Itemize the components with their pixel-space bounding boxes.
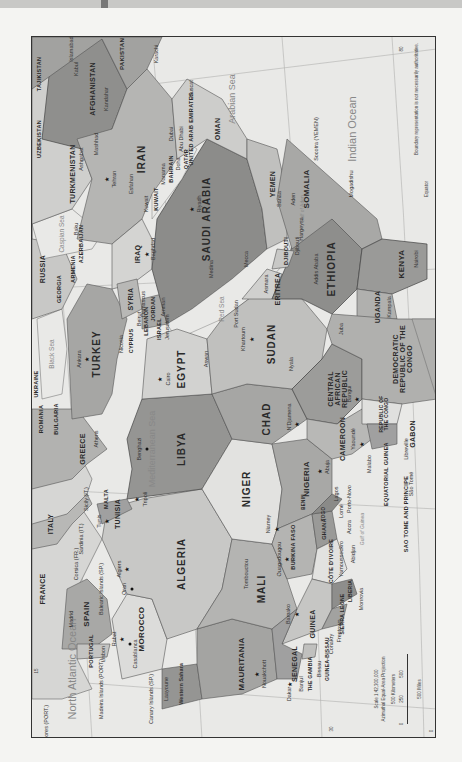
label-malta: MALTA bbox=[104, 489, 110, 509]
label-athens: Athens bbox=[94, 430, 100, 447]
label-algiers: Algiers bbox=[117, 561, 123, 578]
label-iraq: IRAQ bbox=[134, 245, 141, 264]
label-gambia: THE GAMBIA bbox=[308, 657, 313, 692]
label-cyprus: CYPRUS bbox=[129, 329, 135, 354]
capital-marker-cairo: ★ bbox=[157, 377, 163, 382]
capital-marker-riyadh: ★ bbox=[189, 207, 195, 212]
label-somalia: SOMALIA bbox=[303, 170, 311, 209]
capital-marker-tunis: ★ bbox=[104, 519, 110, 524]
scale-ratio: Scale 1:42,300,000 bbox=[375, 670, 380, 709]
label-medina: Medina bbox=[209, 260, 215, 278]
label-djibouti: DJIBOUTI bbox=[284, 237, 290, 265]
label-tripoli: Tripoli bbox=[143, 492, 149, 507]
top-edge-strip bbox=[0, 0, 462, 8]
label-abidjan: Abidjan bbox=[351, 545, 357, 563]
label-conakry: Conakry bbox=[329, 634, 335, 654]
label-france: FRANCE bbox=[39, 574, 46, 605]
label-lat-0: 0 bbox=[430, 730, 435, 733]
label-aden: Aden bbox=[291, 193, 297, 206]
label-mecca: Mecca bbox=[244, 251, 250, 267]
label-oman: OMAN bbox=[214, 118, 221, 141]
label-azerbaijan: AZERBAIJAN bbox=[79, 225, 85, 263]
label-mediterranean-sea: Mediterranean Sea bbox=[148, 411, 157, 488]
label-saudi-arabia: SAUDI ARABIA bbox=[202, 177, 212, 261]
label-kandahar: Kandahar bbox=[104, 87, 110, 111]
label-burkina-faso: BURKINA FASO bbox=[291, 524, 297, 569]
label-ankara: Ankara bbox=[77, 350, 83, 367]
label-eritrea: ERITREA bbox=[274, 273, 281, 306]
capital-marker-rabat: ★ bbox=[119, 637, 125, 642]
label-cote-divoire: CÔTE D'IVOIRE bbox=[329, 539, 335, 584]
map-canvas: Mediterranean Sea Black Sea Caspian Sea … bbox=[32, 37, 436, 738]
label-ukraine: UKRAINE bbox=[34, 370, 40, 397]
label-ashgabat: Ashgabat bbox=[79, 147, 85, 170]
scale-bar bbox=[407, 654, 408, 724]
label-lagos: Lagos bbox=[334, 487, 340, 502]
label-iran: IRAN bbox=[137, 145, 147, 173]
label-uganda: UGANDA bbox=[374, 291, 381, 324]
label-benghazi: Benghazi bbox=[137, 438, 143, 461]
scale-mi-label: 500 Miles bbox=[418, 679, 423, 698]
label-bahrain: BAHRAIN bbox=[169, 155, 175, 182]
label-afghanistan: AFGHANISTAN bbox=[89, 62, 96, 116]
label-red-sea: Red Sea bbox=[219, 296, 226, 321]
label-esfahan: Esfahan bbox=[129, 174, 135, 194]
label-turkey: TURKEY bbox=[92, 330, 102, 377]
label-mashhad: Mashhad bbox=[94, 133, 100, 156]
label-bangui: Bangui bbox=[347, 385, 353, 402]
label-tajikistan: TAJIKISTAN bbox=[37, 57, 43, 92]
label-spain: SPAIN bbox=[83, 601, 91, 626]
label-niamey: Niamey bbox=[266, 515, 272, 534]
label-yamoussoukro: Yamoussoukro bbox=[339, 541, 345, 577]
label-casablanca: Casablanca bbox=[133, 639, 139, 668]
label-algeria: ALGERIA bbox=[177, 538, 187, 590]
capital-marker-yaounde: ★ bbox=[359, 442, 365, 447]
label-chad: CHAD bbox=[262, 403, 272, 436]
label-porto-novo: Porto-Novo bbox=[347, 485, 353, 513]
capital-marker-bangui: ★ bbox=[354, 397, 360, 402]
label-abu-dhabi: Abu Dhabi bbox=[179, 126, 185, 152]
scale-km-label: 500 Kilometers bbox=[392, 674, 397, 704]
label-libya: LIBYA bbox=[177, 432, 187, 466]
label-caspian-sea: Caspian Sea bbox=[59, 215, 66, 252]
label-kuwait-city: Kuwait bbox=[144, 196, 150, 213]
label-kenya: KENYA bbox=[398, 250, 406, 279]
city-marker-casablanca bbox=[129, 643, 132, 646]
city-marker-benghazi bbox=[146, 448, 149, 451]
label-liberia: LIBERIA bbox=[348, 580, 353, 602]
label-accra: Accra bbox=[347, 520, 353, 534]
label-dakar: Dakar bbox=[287, 687, 293, 702]
label-cameroon: CAMEROON bbox=[339, 417, 346, 461]
scale-projection: Azimuthal Equal-Area Projection bbox=[382, 657, 387, 722]
capital-marker-tripoli: ★ bbox=[134, 497, 140, 502]
label-juba: Juba bbox=[339, 323, 345, 335]
label-yemen: YEMEN bbox=[269, 171, 276, 197]
label-guinea: GUINEA bbox=[309, 609, 316, 638]
capital-marker-ouagadougou: ★ bbox=[284, 557, 290, 562]
label-syria: SYRIA bbox=[127, 288, 134, 311]
label-khartoum: Khartoum bbox=[241, 327, 247, 351]
label-republic-of-congo: REPUBLIC OF THE CONGO bbox=[379, 394, 389, 434]
map-frame: Mediterranean Sea Black Sea Caspian Sea … bbox=[31, 36, 436, 738]
label-bulgaria: BULGARIA bbox=[54, 403, 60, 434]
label-nicosia: Nicosia bbox=[119, 335, 125, 353]
label-tombouctou: Tombouctou bbox=[244, 559, 250, 589]
label-madrid: Madrid bbox=[69, 611, 75, 628]
label-tunis: Tunis bbox=[97, 514, 103, 527]
label-malabo: Malabo bbox=[367, 455, 373, 473]
label-russia: RUSSIA bbox=[39, 255, 46, 283]
scale-tick-0: 0 bbox=[400, 723, 405, 726]
label-niger: NIGER bbox=[242, 471, 252, 508]
label-sao-tome: São Tomé bbox=[409, 472, 415, 497]
label-equatorial-guinea: EQUATORIAL GUINEA bbox=[384, 442, 390, 506]
city-marker-oran bbox=[131, 588, 134, 591]
scale-tick-250: 250 bbox=[400, 695, 405, 703]
label-central-african-republic: CENTRAL AFRICAN REPUBLIC bbox=[327, 359, 348, 419]
label-qatar: QATAR bbox=[184, 149, 190, 169]
label-egypt: EGYPT bbox=[177, 350, 187, 389]
label-banjul: Banjul bbox=[299, 676, 305, 691]
boundary-disclaimer: Boundary representation is not necessari… bbox=[415, 43, 420, 155]
capital-marker-ankara: ★ bbox=[84, 357, 90, 362]
label-mogadishu: Mogadishu bbox=[349, 171, 355, 198]
label-monrovia: Monrovia bbox=[359, 588, 365, 611]
